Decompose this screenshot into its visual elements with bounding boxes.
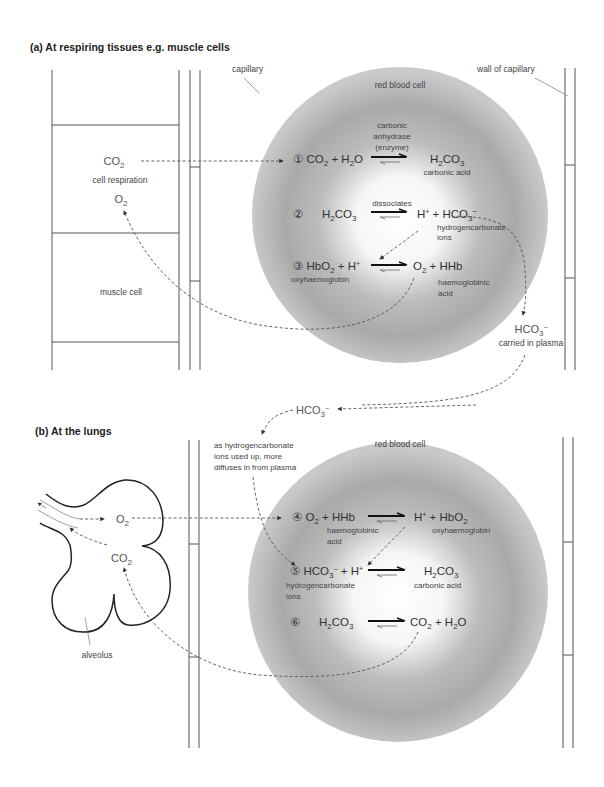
o2-muscle: O2: [114, 193, 128, 208]
arrow-label-2: dissociates: [372, 199, 412, 208]
arrow-label-1c: (enzyme): [375, 143, 409, 152]
capillary-pointer: [244, 78, 259, 93]
reaction-2-step: ②: [293, 208, 303, 220]
wall-of-capillary-pointer: [535, 78, 568, 96]
acid-label-b: acid: [327, 537, 342, 546]
carbonic-acid-label-1: carbonic acid: [423, 168, 470, 177]
section-b-title: (b) At the lungs: [35, 425, 112, 437]
ions-label-a: ions: [437, 233, 452, 242]
hco3-plasma: HCO3−: [515, 323, 548, 338]
hco3-to-note-arrow: [262, 410, 293, 434]
oxyhaemoglobin-label-a: oxyhaemoglobin: [291, 275, 349, 284]
capillary-wall-right-a: [565, 68, 575, 370]
muscle-cell-label: muscle cell: [100, 287, 142, 297]
cell-respiration-label: cell respiration: [93, 175, 148, 185]
alveolus: [38, 480, 170, 645]
rbc-label-a: red blood cell: [375, 80, 426, 90]
hydrogencarbonate-label-b: hydrogencarbonate: [286, 581, 355, 590]
gas-exchange-diagram: (a) At respiring tissues e.g. muscle cel…: [0, 0, 604, 787]
diffuse-note-line3: diffuses in from plasma: [214, 463, 297, 472]
capillary-wall-left-a: [190, 70, 200, 370]
diffuse-note-line1: as hydrogencarbonate: [214, 441, 294, 450]
section-b: (b) At the lungs red blood cell HCO3− as…: [35, 404, 573, 748]
acid-label-a: acid: [438, 289, 453, 298]
o2-alveolus: O2: [116, 513, 130, 528]
haemoglobinic-label-a: haemoglobinic: [438, 278, 490, 287]
co2-muscle: CO2: [104, 155, 126, 170]
wall-of-capillary-label: wall of capillary: [476, 64, 535, 74]
section-a: (a) At respiring tissues e.g. muscle cel…: [30, 41, 575, 405]
carbonic-acid-label-b: carbonic acid: [414, 581, 461, 590]
section-a-title: (a) At respiring tissues e.g. muscle cel…: [30, 41, 230, 53]
exhale-arrowhead: [38, 503, 46, 508]
capillary-wall-right-b: [563, 437, 573, 748]
capillary-wall-left-b: [189, 440, 199, 748]
co2-exhale-arrow: [70, 528, 107, 545]
muscle-cell-column: [52, 70, 179, 370]
diffuse-note-line2: ions used up, more: [214, 452, 283, 461]
haemoglobinic-label-b: haemoglobinic: [327, 526, 379, 535]
arrow-label-1a: carbonic: [377, 121, 407, 130]
carried-in-plasma-label: carried in plasma: [499, 338, 564, 348]
reaction-6-step: ⑥: [290, 616, 300, 628]
diagram-canvas: (a) At respiring tissues e.g. muscle cel…: [0, 0, 604, 787]
plasma-arrow-into-lungs: [338, 405, 476, 409]
alveolus-label: alveolus: [81, 650, 112, 660]
plasma-to-lungs-arrow: [360, 355, 525, 405]
arrow-label-1b: anhydrase: [373, 132, 411, 141]
hydrogencarbonate-label-a: hydrogencarbonate: [437, 223, 506, 232]
oxyhaemoglobin-label-b: oxyhaemoglobin: [432, 526, 490, 535]
capillary-label: capillary: [232, 64, 264, 74]
ions-label-b: ions: [286, 592, 301, 601]
rbc-label-b: red blood cell: [375, 439, 426, 449]
hco3-lungs: HCO3−: [296, 404, 329, 419]
co2-alveolus: CO2: [111, 552, 133, 567]
